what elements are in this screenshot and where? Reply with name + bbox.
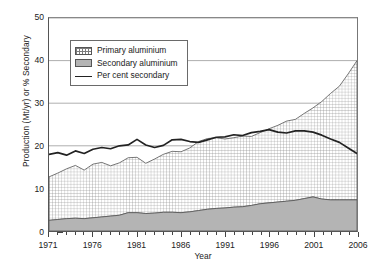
y-axis-ticks: 01020304050 [14, 17, 44, 232]
x-tick-label: 1981 [127, 240, 146, 250]
x-tick-label: 1996 [260, 240, 279, 250]
x-tickmark-major [225, 232, 226, 237]
x-axis-label: Year [48, 251, 358, 261]
x-tickmark-major [48, 232, 49, 237]
y-tick-label: 20 [14, 141, 44, 151]
plot-area: Primary aluminium Secondary aluminium Pe… [48, 17, 358, 232]
x-tickmark-major [137, 232, 138, 237]
legend-label-percent: Per cent secondary [97, 71, 169, 79]
x-tick-label: 1971 [38, 240, 57, 250]
x-tickmark-major [358, 232, 359, 237]
x-tickmark-minor [331, 232, 332, 235]
x-tickmark-minor [190, 232, 191, 235]
x-tickmark-minor [163, 232, 164, 235]
x-tickmark-minor [323, 232, 324, 235]
x-tickmark-major [181, 232, 182, 237]
x-tickmark-minor [349, 232, 350, 235]
x-tickmark-minor [128, 232, 129, 235]
legend-label-primary: Primary aluminium [97, 46, 166, 54]
x-tickmark-minor [261, 232, 262, 235]
chart-legend: Primary aluminium Secondary aluminium Pe… [70, 40, 188, 86]
x-tick-label: 1976 [83, 240, 102, 250]
x-tickmark-minor [83, 232, 84, 235]
y-tick-label: 30 [14, 98, 44, 108]
x-tickmark-minor [305, 232, 306, 235]
x-tickmark-minor [340, 232, 341, 235]
y-tick-label: 40 [14, 55, 44, 65]
x-tickmark-minor [216, 232, 217, 235]
legend-item-percent: Per cent secondary [75, 70, 182, 82]
legend-item-secondary: Secondary aluminium [75, 57, 182, 69]
x-tickmark-minor [296, 232, 297, 235]
aluminium-production-chart: Production (Mt/yr) or % Secondary 010203… [0, 0, 382, 277]
x-tick-label: 1991 [216, 240, 235, 250]
legend-label-secondary: Secondary aluminium [97, 59, 178, 67]
x-tickmark-minor [172, 232, 173, 235]
x-tick-label: 1986 [171, 240, 190, 250]
x-tickmark-major [314, 232, 315, 237]
x-axis-ticks: 19711976198119861991199620012006 [48, 232, 358, 252]
x-tickmark-minor [119, 232, 120, 235]
x-tickmark-minor [207, 232, 208, 235]
x-tickmark-minor [234, 232, 235, 235]
solid-gray-swatch [75, 59, 92, 67]
x-tickmark-minor [66, 232, 67, 235]
x-tickmark-minor [278, 232, 279, 235]
x-tickmark-minor [252, 232, 253, 235]
x-tickmark-major [269, 232, 270, 237]
x-tickmark-minor [154, 232, 155, 235]
x-tickmark-minor [145, 232, 146, 235]
legend-item-primary: Primary aluminium [75, 45, 182, 57]
crosshatch-swatch [75, 47, 92, 55]
x-tick-label: 2006 [348, 240, 367, 250]
x-tickmark-minor [101, 232, 102, 235]
y-tick-label: 50 [14, 12, 44, 22]
x-tickmark-minor [287, 232, 288, 235]
y-tick-label: 0 [14, 227, 44, 237]
x-tickmark-minor [199, 232, 200, 235]
y-tick-label: 10 [14, 184, 44, 194]
x-tickmark-minor [57, 232, 58, 235]
x-tickmark-minor [75, 232, 76, 235]
line-swatch [75, 76, 92, 77]
x-tickmark-major [92, 232, 93, 237]
x-tickmark-minor [110, 232, 111, 235]
x-tick-label: 2001 [304, 240, 323, 250]
x-tickmark-minor [243, 232, 244, 235]
